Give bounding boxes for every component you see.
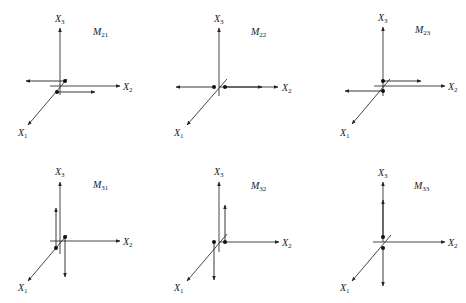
panel-title: M33 bbox=[413, 180, 430, 193]
panel-m32: X3 X2 X1 M32 bbox=[173, 166, 292, 295]
point-source-dot bbox=[381, 79, 385, 83]
axes bbox=[28, 182, 120, 281]
point-source-dot bbox=[63, 79, 67, 83]
panel-m22: X3 X2 X1 M22 bbox=[173, 13, 292, 140]
x2-label: X2 bbox=[122, 81, 133, 94]
x1-axis bbox=[352, 235, 391, 281]
x1-label: X1 bbox=[339, 282, 350, 295]
x1-label: X1 bbox=[173, 282, 184, 295]
panel-m33: X3 X2 X1 M33 bbox=[339, 167, 458, 295]
x1-axis bbox=[187, 79, 227, 125]
x2-label: X2 bbox=[447, 81, 458, 94]
axes bbox=[187, 182, 279, 281]
x1-label: X1 bbox=[173, 127, 184, 140]
axes bbox=[352, 27, 445, 124]
point-source-dot bbox=[381, 89, 385, 93]
x3-label: X3 bbox=[377, 167, 388, 180]
x1-axis bbox=[28, 235, 67, 281]
x1-label: X1 bbox=[17, 282, 28, 295]
panel-m31: X3 X2 X1 M31 bbox=[17, 166, 133, 295]
x2-label: X2 bbox=[122, 236, 133, 249]
point-source-dot bbox=[55, 90, 59, 94]
point-source-dot bbox=[212, 85, 216, 89]
x1-label: X1 bbox=[339, 127, 350, 140]
x1-axis bbox=[187, 234, 227, 281]
point-source-dot bbox=[212, 240, 216, 244]
panel-title: M22 bbox=[250, 26, 267, 39]
point-source-dot bbox=[381, 246, 385, 250]
point-source-dot bbox=[63, 235, 67, 239]
panel-m21: X3 X2 X1 M21 bbox=[17, 13, 133, 140]
axes bbox=[28, 28, 120, 125]
panel-m23: X3 X2 X1 M23 bbox=[339, 12, 458, 140]
x3-label: X3 bbox=[377, 12, 388, 25]
x2-label: X2 bbox=[281, 237, 292, 250]
point-source-dot bbox=[381, 235, 385, 239]
panel-title: M21 bbox=[92, 26, 109, 39]
point-source-dot bbox=[223, 240, 227, 244]
panel-title: M31 bbox=[92, 179, 109, 192]
x1-label: X1 bbox=[17, 127, 28, 140]
x3-label: X3 bbox=[54, 13, 65, 26]
axes bbox=[352, 182, 445, 281]
point-source-dot bbox=[223, 85, 227, 89]
x3-label: X3 bbox=[54, 166, 65, 179]
panel-title: M23 bbox=[414, 24, 431, 37]
x2-label: X2 bbox=[447, 237, 458, 250]
x2-label: X2 bbox=[281, 82, 292, 95]
x3-label: X3 bbox=[213, 166, 224, 179]
panel-title: M32 bbox=[250, 180, 267, 193]
point-source-dot bbox=[54, 246, 58, 250]
x3-label: X3 bbox=[213, 13, 224, 26]
x1-axis bbox=[352, 79, 390, 124]
axes bbox=[187, 28, 278, 125]
x1-axis bbox=[28, 79, 67, 125]
moment-tensor-diagram: X3 X2 X1 M21 X3 X2 X1 M22 X3 X2 X1 bbox=[0, 0, 466, 303]
